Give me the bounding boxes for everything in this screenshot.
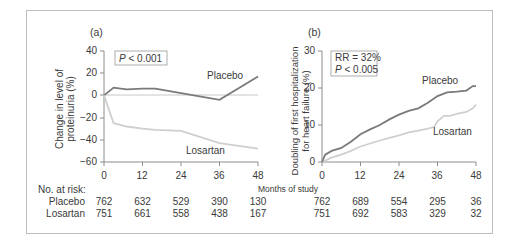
at-risk-cell: 438: [208, 208, 232, 219]
b-x-ticks: [322, 162, 476, 166]
a-losartan-label: Losartan: [186, 145, 225, 156]
b-p-text: < 0.005: [342, 64, 378, 75]
at-risk-header: No. at risk:: [38, 184, 86, 195]
at-risk-cell: 751: [92, 208, 116, 219]
a-ylabel-line1: Change in level of: [54, 49, 65, 169]
panel-a: [100, 51, 258, 166]
a-ytick: −40: [70, 134, 97, 145]
at-risk-cell: 692: [349, 208, 373, 219]
at-risk-cell: 329: [426, 208, 450, 219]
b-xtick: 12: [350, 170, 370, 181]
at-risk-cell: 558: [169, 208, 193, 219]
a-p-symbol: P: [119, 53, 126, 64]
at-risk-cell: 661: [131, 208, 155, 219]
at-risk-cell: 167: [246, 208, 270, 219]
at-risk-cell: 762: [92, 196, 116, 207]
at-risk-cell: 390: [208, 196, 232, 207]
at-risk-cell: 583: [387, 208, 411, 219]
at-risk-cell: 689: [349, 196, 373, 207]
x-axis-title: Months of study: [258, 184, 318, 195]
at-risk-row-label: Placebo: [30, 196, 85, 207]
a-x-ticks: [104, 162, 258, 166]
b-ytick: 20: [290, 82, 315, 93]
a-ytick: 0: [70, 89, 97, 100]
at-risk-cell: 529: [169, 196, 193, 207]
a-xtick: 48: [248, 170, 268, 181]
b-xtick: 36: [427, 170, 447, 181]
b-ytick: 0: [290, 156, 315, 167]
b-ytick: 30: [290, 45, 315, 56]
b-pvalue: P < 0.005: [335, 64, 378, 75]
a-ytick: 20: [70, 67, 97, 78]
at-risk-cell: 36: [464, 196, 488, 207]
at-risk-cell: 762: [310, 196, 334, 207]
a-losartan-line: [104, 95, 258, 148]
at-risk-cell: 751: [310, 208, 334, 219]
b-y-ticks: [318, 51, 322, 162]
at-risk-row-label: Losartan: [30, 208, 85, 219]
a-xtick: 24: [171, 170, 191, 181]
a-xtick: 0: [94, 170, 114, 181]
a-p-text: < 0.001: [126, 53, 162, 64]
b-losartan-label: Losartan: [433, 126, 472, 137]
a-ytick: −20: [70, 112, 97, 123]
a-xtick: 36: [209, 170, 229, 181]
at-risk-cell: 130: [246, 196, 270, 207]
b-xtick: 0: [312, 170, 332, 181]
a-xtick: 12: [132, 170, 152, 181]
b-placebo-label: Placebo: [422, 75, 458, 86]
a-ytick: 40: [70, 45, 97, 56]
a-pvalue: P < 0.001: [119, 53, 162, 64]
b-xtick: 24: [389, 170, 409, 181]
at-risk-cell: 632: [131, 196, 155, 207]
b-xtick: 48: [466, 170, 486, 181]
b-placebo-line: [322, 86, 476, 162]
b-ytick: 10: [290, 119, 315, 130]
at-risk-cell: 295: [426, 196, 450, 207]
panel-a-label: (a): [90, 27, 103, 38]
a-y-ticks: [100, 51, 104, 162]
a-placebo-label: Placebo: [207, 70, 243, 81]
a-ytick: −60: [70, 156, 97, 167]
at-risk-cell: 32: [464, 208, 488, 219]
b-p-symbol: P: [335, 64, 342, 75]
b-rr: RR = 32%: [335, 52, 381, 63]
at-risk-cell: 554: [387, 196, 411, 207]
